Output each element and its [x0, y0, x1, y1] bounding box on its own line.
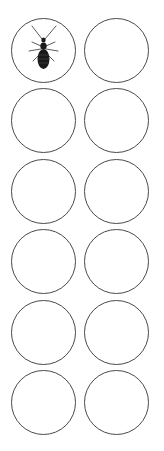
slot-5[interactable]	[11, 159, 76, 224]
slot-11[interactable]	[11, 370, 76, 435]
slot-grid	[11, 18, 149, 435]
slot-6[interactable]	[84, 159, 149, 224]
slot-8[interactable]	[84, 229, 149, 294]
slot-12[interactable]	[84, 370, 149, 435]
slot-9[interactable]	[11, 300, 76, 365]
insect-icon	[12, 19, 75, 82]
slot-4[interactable]	[84, 88, 149, 153]
slot-7[interactable]	[11, 229, 76, 294]
slot-2[interactable]	[84, 18, 149, 83]
slot-3[interactable]	[11, 88, 76, 153]
slot-1[interactable]	[11, 18, 76, 83]
slot-10[interactable]	[84, 300, 149, 365]
